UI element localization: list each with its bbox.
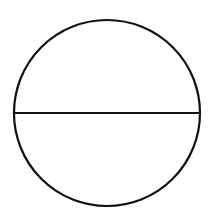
diagram-canvas xyxy=(0,0,217,222)
